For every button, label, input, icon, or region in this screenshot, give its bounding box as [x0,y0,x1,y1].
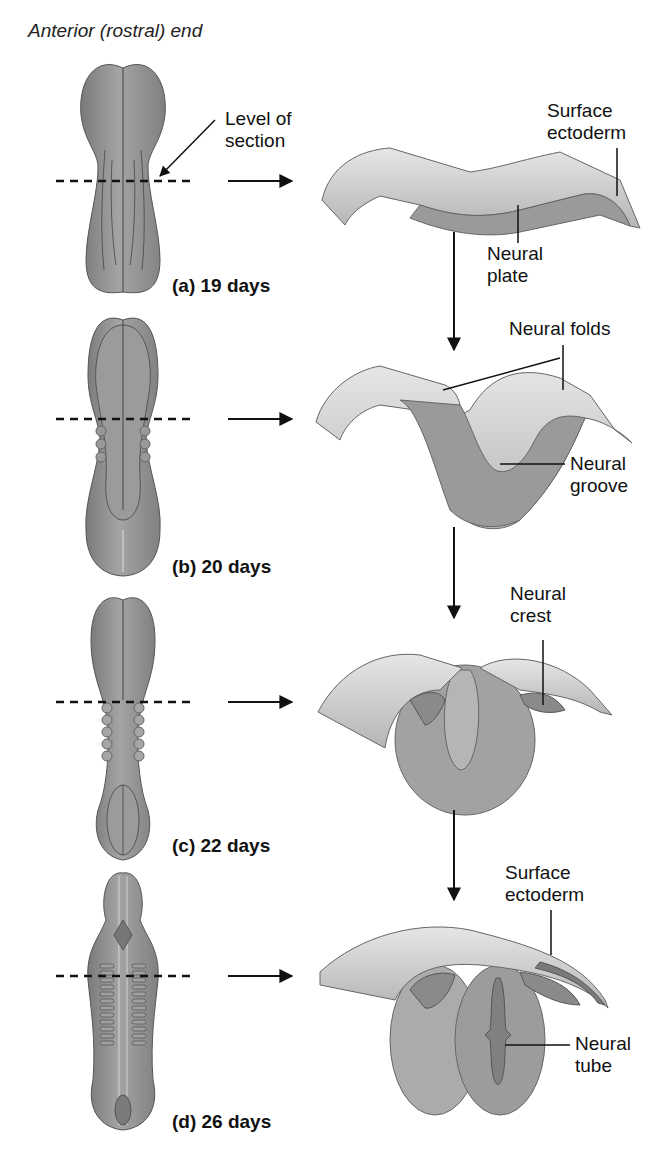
label-neural-crest: Neural crest [510,583,566,627]
label-surface-ectoderm-d: Surface ectoderm [505,862,584,906]
section-neural-crest [318,654,612,815]
neural-tube-diagram [0,0,663,1155]
label-neural-plate: Neural plate [487,243,543,287]
embryo-20-days [86,318,160,576]
embryo-22-days [91,598,155,860]
stage-label-d: (d) 26 days [172,1111,271,1133]
stage-label-c: (c) 22 days [172,835,270,857]
section-neural-groove [316,366,632,529]
stage-label-a: (a) 19 days [172,275,270,297]
embryo-19-days [81,65,166,293]
label-surface-ectoderm-a: Surface ectoderm [547,100,626,144]
label-neural-groove: Neural groove [570,453,628,497]
embryo-26-days [88,873,158,1130]
stage-label-b: (b) 20 days [172,556,271,578]
level-of-section-label: Level of section [225,108,292,152]
level-of-section-pointer [160,120,215,176]
label-neural-folds: Neural folds [509,318,610,340]
section-neural-tube [320,927,608,1115]
section-neural-plate [322,148,640,235]
label-neural-tube: Neural tube [575,1033,631,1077]
diagram-title: Anterior (rostral) end [28,20,202,42]
